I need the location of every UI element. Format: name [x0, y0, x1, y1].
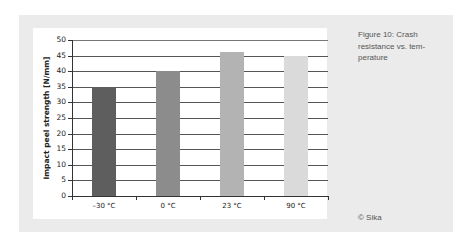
bar — [284, 56, 308, 196]
bar — [92, 87, 116, 196]
y-tick-label: 5 — [46, 176, 66, 184]
y-tick-label: 45 — [46, 52, 66, 60]
x-category-label: –30 °C — [72, 202, 136, 210]
y-tick-label: 35 — [46, 83, 66, 91]
caption-line-2: resistance vs. tem- — [358, 41, 448, 53]
y-tick-label: 10 — [46, 161, 66, 169]
y-tick-label: 30 — [46, 98, 66, 106]
figure-caption: Figure 10: Crash resistance vs. tem- per… — [358, 29, 448, 64]
bar — [156, 71, 180, 196]
y-tick-label: 15 — [46, 145, 66, 153]
caption-line-1: Figure 10: Crash — [358, 29, 448, 41]
x-category-label: 23 °C — [200, 202, 264, 210]
y-tick-label: 50 — [46, 36, 66, 44]
x-category-label: 0 °C — [136, 202, 200, 210]
x-tick — [328, 196, 329, 200]
y-axis — [72, 40, 73, 197]
x-category-label: 90 °C — [264, 202, 328, 210]
y-tick-label: 20 — [46, 130, 66, 138]
bar — [220, 52, 244, 196]
x-axis — [72, 196, 328, 197]
caption-line-3: perature — [358, 52, 448, 64]
y-tick-label: 25 — [46, 114, 66, 122]
y-tick-label: 0 — [46, 192, 66, 200]
gridline — [72, 40, 328, 41]
y-tick-label: 40 — [46, 67, 66, 75]
copyright-credit: © Sika — [358, 213, 382, 222]
plot-area: 05101520253035404550–30 °C0 °C23 °C90 °C — [72, 40, 328, 196]
